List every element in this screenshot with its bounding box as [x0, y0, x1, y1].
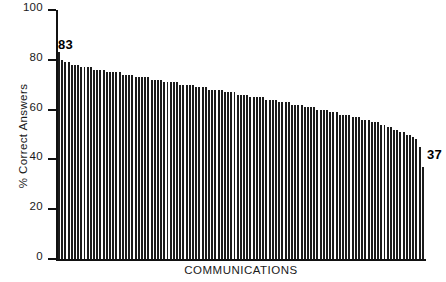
y-tick-mark [48, 9, 56, 11]
bar [355, 117, 357, 259]
bar [71, 65, 73, 259]
bar [393, 130, 395, 259]
bar [167, 82, 169, 259]
bar [342, 115, 344, 259]
bar [368, 120, 370, 259]
bar [151, 80, 153, 259]
bar [84, 67, 86, 259]
bar [77, 65, 79, 259]
bar [122, 75, 124, 259]
bar [131, 75, 133, 259]
bar [138, 77, 140, 259]
bar [240, 95, 242, 259]
y-tick-mark [48, 109, 56, 111]
bar [320, 110, 322, 259]
bar [179, 85, 181, 259]
bar [278, 102, 280, 259]
bar [380, 125, 382, 259]
bar [323, 110, 325, 259]
bar [128, 75, 130, 259]
x-axis-line [56, 259, 426, 261]
bar [198, 87, 200, 259]
bar [202, 87, 204, 259]
bar [170, 82, 172, 259]
bar [291, 105, 293, 259]
bar [288, 102, 290, 259]
bar [403, 132, 405, 259]
bar [304, 107, 306, 259]
bar [262, 97, 264, 259]
bar [310, 107, 312, 259]
y-tick-label: 60 [30, 101, 43, 113]
bar [313, 107, 315, 259]
bar [182, 85, 184, 259]
bar [246, 95, 248, 259]
bar [256, 97, 258, 259]
bar [135, 77, 137, 259]
bar [144, 77, 146, 259]
bar [176, 82, 178, 259]
bar [269, 100, 271, 259]
bar [230, 92, 232, 259]
bar [275, 100, 277, 259]
bar [326, 110, 328, 259]
bar [189, 85, 191, 259]
bar [361, 120, 363, 259]
bar [399, 132, 401, 259]
bar [272, 100, 274, 259]
bar [332, 112, 334, 259]
bar [249, 97, 251, 259]
bar [412, 137, 414, 259]
bar [99, 70, 101, 259]
bar [285, 102, 287, 259]
bar [301, 105, 303, 259]
y-tick-80: 80 [48, 59, 56, 61]
bar [406, 135, 408, 260]
bar [112, 72, 114, 259]
bar [93, 70, 95, 259]
bar [109, 72, 111, 259]
y-tick-mark [48, 158, 56, 160]
bar [224, 92, 226, 259]
y-axis-title: % Correct Answers [17, 51, 29, 221]
y-tick-mark [48, 59, 56, 61]
bar [384, 125, 386, 259]
bar [173, 82, 175, 259]
bar [336, 112, 338, 259]
bar [163, 82, 165, 259]
bar [74, 65, 76, 259]
bar [218, 90, 220, 259]
y-tick-label: 0 [36, 250, 43, 262]
bar [58, 52, 60, 259]
annotation-last-bar-value: 37 [427, 147, 442, 162]
bar [208, 90, 210, 259]
bar [214, 90, 216, 259]
y-tick-label: 40 [30, 150, 43, 162]
bar [147, 77, 149, 259]
bar [348, 115, 350, 259]
bar [195, 87, 197, 259]
bar [396, 130, 398, 259]
bar [294, 105, 296, 259]
bar [307, 107, 309, 259]
bar [87, 67, 89, 259]
plot-area [58, 10, 425, 259]
bar [352, 117, 354, 259]
bar [281, 102, 283, 259]
bar [390, 127, 392, 259]
bar [125, 75, 127, 259]
bar-chart: % Correct Answers 020406080100 83 37 COM… [0, 0, 446, 282]
bar [115, 72, 117, 259]
bar [157, 80, 159, 259]
bar [237, 95, 239, 259]
annotation-first-bar-value: 83 [58, 37, 73, 52]
bar [377, 122, 379, 259]
y-tick-mark [48, 258, 56, 260]
bar [106, 72, 108, 259]
bar [415, 139, 417, 259]
bar [80, 67, 82, 259]
y-tick-40: 40 [48, 158, 56, 160]
bar [103, 70, 105, 259]
bar [192, 85, 194, 259]
y-tick-0: 0 [48, 258, 56, 260]
